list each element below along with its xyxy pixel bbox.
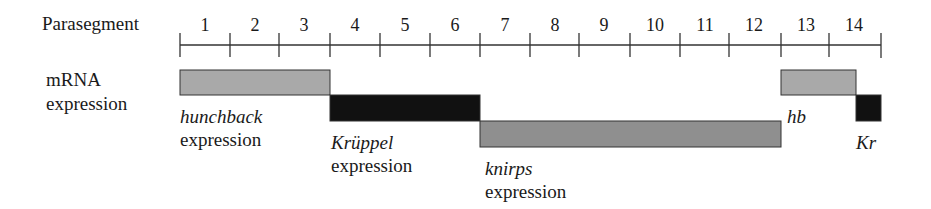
kruppel-gene-label: Krüppel [331,132,393,154]
expression-label: expression [46,93,127,115]
hunchback-gene-label: hunchback [180,106,262,128]
diagram-canvas [0,0,931,209]
hunchback-expression-label: expression [180,129,261,151]
kruppel-bar [330,95,480,121]
kr-label: Kr [856,132,876,154]
kr-posterior-bar [856,95,881,121]
parasegment-axis [180,33,881,58]
kruppel-expression-label: expression [331,155,412,177]
expression-bars [180,70,881,147]
hunchback-bar [180,70,330,95]
knirps-gene-label: knirps [485,158,533,180]
knirps-expression-label: expression [485,181,566,203]
knirps-bar [480,121,781,147]
hb-posterior-bar [781,70,856,95]
hb-label: hb [787,106,806,128]
mrna-label: mRNA [46,69,101,91]
